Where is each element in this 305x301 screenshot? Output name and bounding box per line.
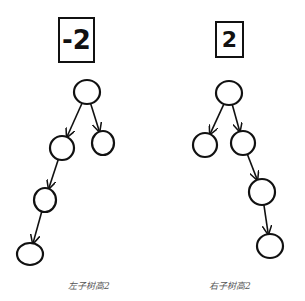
caption-right-subtree-height: 右子树高2	[209, 279, 251, 292]
tree-node-right-root	[216, 81, 242, 105]
edge-arrow-left-left-to-left-left	[49, 159, 59, 188]
edge-arrow-right-root-to-right	[232, 105, 240, 132]
tree-node-left-left	[50, 136, 74, 160]
tree-node-right-right	[231, 131, 255, 155]
tree-node-left-root	[74, 80, 100, 104]
avl-imbalance-diagram	[0, 0, 305, 301]
balance-factor-value-left: -2	[62, 25, 91, 55]
edge-arrow-left-root-to-left	[67, 103, 82, 137]
nodes-layer	[17, 80, 283, 265]
edges-layer	[33, 103, 268, 243]
edge-arrow-right-right-to-right-right	[247, 154, 257, 180]
tree-node-left-right	[92, 131, 114, 155]
balance-factor-value-right: 2	[222, 27, 237, 52]
tree-node-left-left-left-left	[17, 243, 43, 265]
tree-node-right-left	[193, 133, 217, 157]
edge-arrow-left-left-left-to-left-left-left	[33, 212, 42, 244]
caption-left-subtree-height: 左子树高2	[68, 279, 110, 292]
tree-node-right-right-right-right	[257, 234, 283, 258]
balance-factor-box-right: 2	[215, 21, 244, 58]
tree-node-left-left-left	[34, 188, 56, 212]
tree-node-right-right-right	[249, 179, 275, 205]
balance-factor-box-left: -2	[58, 17, 95, 63]
edge-arrow-right-right-right-to-right-right-right	[264, 205, 268, 234]
edge-arrow-right-root-to-left	[210, 104, 224, 134]
edge-arrow-left-root-to-right	[91, 103, 100, 131]
